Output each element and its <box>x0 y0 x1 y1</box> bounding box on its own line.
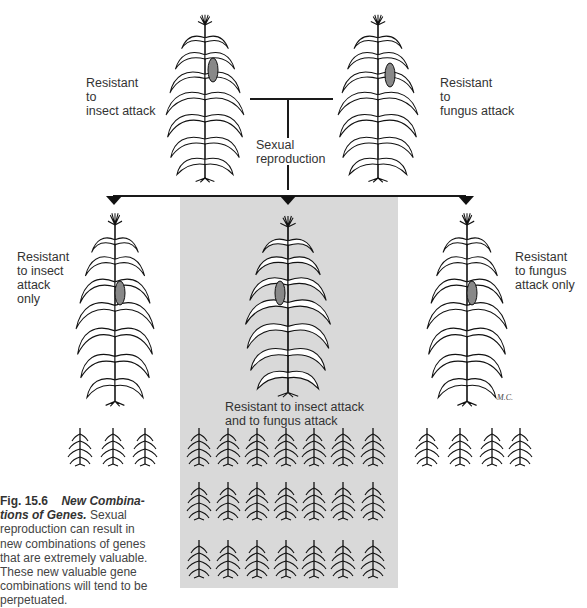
seedlings-fungus-only <box>415 428 532 466</box>
caption-line: Sexual <box>90 508 127 522</box>
corn-plant-offspring-combined <box>246 216 331 397</box>
caption-line: perpetuated. <box>0 593 170 607</box>
seedlings-insect-only <box>68 428 157 466</box>
caption-line: new combinations of genes <box>0 537 170 551</box>
caption-line: combinations will tend to be <box>0 579 170 593</box>
caption-line: that are extremely valuable. <box>0 551 170 565</box>
corn-plant-parent-fungus-resistant <box>338 15 418 182</box>
corn-ear-icon <box>275 281 285 305</box>
caption-line: These new valuable gene <box>0 565 170 579</box>
corn-ear-icon <box>385 63 395 87</box>
seedlings-combined <box>187 428 385 578</box>
caption-line: reproduction can result in <box>0 522 170 536</box>
corn-ear-icon <box>208 58 218 82</box>
corn-plant-parent-insect-resistant <box>166 15 244 182</box>
artist-signature: M.C. <box>496 393 513 402</box>
corn-plant-offspring-insect-only <box>76 213 154 406</box>
figure-title-line1: New Combina- <box>61 494 144 508</box>
corn-plant-offspring-fungus-only <box>427 213 507 406</box>
corn-ear-icon <box>115 281 125 305</box>
figure-caption: Fig. 15.6 New Combina- tions of Genes. S… <box>0 494 170 608</box>
figure-title-line2: tions of Genes. <box>0 508 87 522</box>
figure-number: Fig. 15.6 <box>0 494 48 508</box>
corn-ear-icon <box>467 281 477 305</box>
